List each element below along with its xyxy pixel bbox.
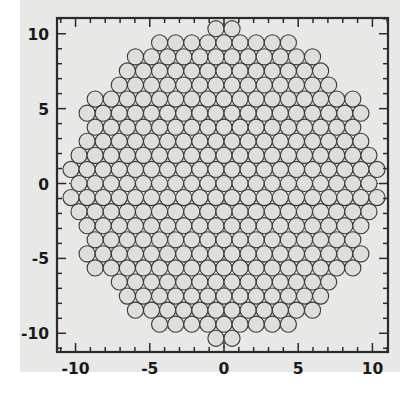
- circle-marker: [353, 161, 369, 177]
- circle-marker: [321, 246, 337, 262]
- circle-marker: [280, 63, 296, 79]
- circle-marker: [135, 119, 151, 135]
- circle-marker: [256, 49, 272, 65]
- circle-marker: [256, 105, 272, 121]
- circle-marker: [79, 218, 95, 234]
- circle-marker: [127, 77, 143, 93]
- circle-marker: [337, 218, 353, 234]
- circle-marker: [288, 105, 304, 121]
- circle-marker: [224, 105, 240, 121]
- circle-marker: [280, 232, 296, 248]
- circle-marker: [296, 232, 312, 248]
- circle-marker: [135, 260, 151, 276]
- circle-marker: [95, 246, 111, 262]
- circle-marker: [272, 77, 288, 93]
- circle-marker: [111, 105, 127, 121]
- circle-marker: [152, 119, 168, 135]
- circle-marker: [216, 175, 232, 191]
- circle-marker: [248, 260, 264, 276]
- circle-marker: [216, 119, 232, 135]
- circle-marker: [143, 302, 159, 318]
- circle-marker: [152, 204, 168, 220]
- circle-marker: [232, 204, 248, 220]
- circle-marker: [248, 119, 264, 135]
- circle-marker: [79, 190, 95, 206]
- circle-marker: [288, 218, 304, 234]
- circle-marker: [127, 105, 143, 121]
- circle-marker: [176, 105, 192, 121]
- circle-marker: [240, 161, 256, 177]
- circle-marker: [296, 91, 312, 107]
- circle-marker: [288, 49, 304, 65]
- circle-marker: [208, 105, 224, 121]
- circle-marker: [152, 35, 168, 51]
- circle-marker: [160, 105, 176, 121]
- circle-marker: [135, 63, 151, 79]
- figure-page: -10-50510 1050-5-10: [0, 0, 418, 402]
- circle-marker: [321, 105, 337, 121]
- circle-marker: [337, 246, 353, 262]
- circle-marker: [224, 133, 240, 149]
- circle-marker: [208, 274, 224, 290]
- circle-marker: [305, 218, 321, 234]
- circle-marker: [135, 232, 151, 248]
- circle-marker: [200, 63, 216, 79]
- circle-marker: [216, 204, 232, 220]
- circle-marker: [224, 190, 240, 206]
- circle-marker: [127, 218, 143, 234]
- circle-marker: [321, 77, 337, 93]
- circle-marker: [305, 246, 321, 262]
- circle-marker: [143, 218, 159, 234]
- circle-marker: [216, 316, 232, 332]
- circle-marker: [143, 105, 159, 121]
- circle-marker: [135, 288, 151, 304]
- circle-marker: [337, 105, 353, 121]
- circle-marker: [264, 35, 280, 51]
- circle-marker: [143, 190, 159, 206]
- circle-marker: [353, 133, 369, 149]
- circle-marker: [176, 133, 192, 149]
- circle-marker: [321, 218, 337, 234]
- y-tick-label: 10: [27, 26, 49, 44]
- circle-marker: [200, 204, 216, 220]
- circle-marker: [313, 204, 329, 220]
- circle-marker: [369, 161, 385, 177]
- circle-marker: [176, 77, 192, 93]
- circle-marker: [240, 274, 256, 290]
- circle-marker: [248, 204, 264, 220]
- circle-marker: [232, 232, 248, 248]
- circle-marker: [216, 288, 232, 304]
- circle-marker: [305, 49, 321, 65]
- circle-marker: [160, 190, 176, 206]
- circle-marker: [192, 302, 208, 318]
- circle-marker: [232, 260, 248, 276]
- circle-marker: [321, 133, 337, 149]
- circle-marker: [111, 133, 127, 149]
- circle-marker: [176, 49, 192, 65]
- circle-marker: [288, 77, 304, 93]
- circle-marker: [272, 190, 288, 206]
- circle-marker: [95, 190, 111, 206]
- circle-marker: [240, 302, 256, 318]
- circle-marker: [160, 274, 176, 290]
- circle-marker: [248, 288, 264, 304]
- circle-marker: [296, 204, 312, 220]
- circle-marker: [87, 91, 103, 107]
- circle-marker: [160, 246, 176, 262]
- circle-marker: [119, 232, 135, 248]
- circle-marker: [184, 175, 200, 191]
- circle-marker: [119, 147, 135, 163]
- circle-marker: [313, 91, 329, 107]
- circle-marker: [256, 161, 272, 177]
- x-axis-tick-labels: -10-50510: [62, 360, 384, 378]
- circle-marker: [63, 190, 79, 206]
- circle-marker: [200, 316, 216, 332]
- circle-marker: [321, 274, 337, 290]
- circle-marker: [224, 218, 240, 234]
- circle-marker: [160, 218, 176, 234]
- circle-marker: [224, 246, 240, 262]
- circle-marker: [200, 147, 216, 163]
- circle-marker: [216, 232, 232, 248]
- circle-marker: [240, 133, 256, 149]
- circle-marker: [184, 63, 200, 79]
